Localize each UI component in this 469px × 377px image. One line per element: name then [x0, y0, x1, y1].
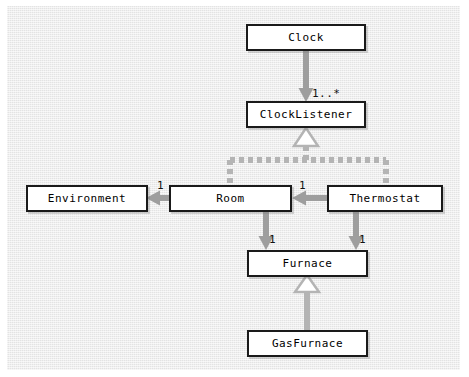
multiplicity-thermostat-to-room: 1: [299, 179, 306, 192]
edge-dashed-realization-bus: [230, 160, 386, 186]
class-label-thermostat: Thermostat: [349, 192, 420, 205]
class-box-furnace[interactable]: Furnace: [247, 250, 368, 277]
class-label-room: Room: [216, 192, 245, 205]
class-box-environment[interactable]: Environment: [26, 185, 148, 212]
multiplicity-clock-to-clocklistener: 1..*: [312, 87, 341, 100]
class-box-gasfurnace[interactable]: GasFurnace: [247, 330, 368, 357]
class-box-room[interactable]: Room: [169, 185, 292, 212]
multiplicity-room-to-furnace: 1: [269, 233, 276, 246]
edge-realization-triangle-clocklistener: [294, 128, 318, 160]
edge-room-to-environment: [146, 191, 169, 206]
multiplicity-room-to-environment: 1: [157, 179, 164, 192]
multiplicity-thermostat-to-furnace: 1: [359, 233, 366, 246]
class-box-thermostat[interactable]: Thermostat: [327, 185, 443, 212]
class-label-clocklistener: ClockListener: [260, 108, 353, 121]
edge-gasfurnace-inherits-furnace: [295, 275, 319, 330]
class-label-clock: Clock: [288, 31, 324, 44]
class-label-environment: Environment: [48, 192, 126, 205]
class-box-clock[interactable]: Clock: [246, 24, 366, 51]
class-label-gasfurnace: GasFurnace: [272, 337, 343, 350]
edge-thermostat-to-room: [292, 191, 327, 206]
diagram-canvas: Clock ClockListener Environment Room The…: [0, 0, 469, 377]
class-box-clocklistener[interactable]: ClockListener: [246, 101, 366, 128]
class-label-furnace: Furnace: [283, 257, 333, 270]
